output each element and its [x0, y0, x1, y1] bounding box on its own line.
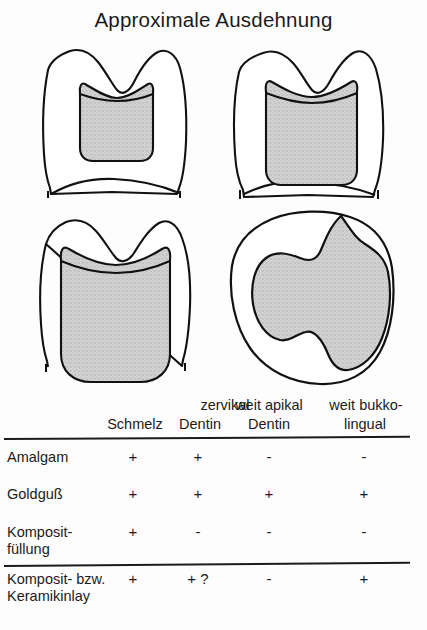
cell-keramikinlay-lingual: + [344, 571, 384, 588]
tooth-proximal-weit-apikal [22, 206, 212, 391]
cell-amalgam-lingual: - [344, 449, 384, 466]
cell-goldguss-schmelz: + [113, 486, 153, 503]
cell-kompositfuellung-zervikal-dentin: - [178, 524, 218, 541]
table-row: Amalgam + + - - [0, 442, 427, 479]
cell-amalgam-apikal-dentin: - [249, 449, 289, 466]
cell-keramikinlay-schmelz: + [113, 571, 153, 588]
cell-goldguss-lingual: + [344, 486, 384, 503]
group-header-weit-bukko: weit bukko- [316, 397, 416, 413]
column-header-schmelz: Schmelz [103, 416, 167, 432]
table-body: Amalgam + + - - Goldguß + + + + Komposit… [0, 442, 427, 611]
page-title: Approximale Ausdehnung [0, 8, 427, 32]
table-row: Komposit- füllung + - - - [0, 517, 427, 565]
table-row: Goldguß + + + + [0, 479, 427, 517]
cell-kompositfuellung-lingual: - [344, 524, 384, 541]
cell-amalgam-zervikal-dentin: + [178, 449, 218, 466]
row-label-amalgam: Amalgam [7, 449, 68, 466]
tooth-proximal-deep-cervical-dentin [218, 42, 408, 207]
column-header-lingual: lingual [334, 416, 396, 432]
indication-table: zervikal weit apikal weit bukko- Schmelz… [0, 396, 427, 630]
table-row: Komposit- bzw. Keramikinlay + + ? - + [0, 565, 427, 611]
tooth-figure-4-svg [222, 206, 417, 396]
tooth-occlusal-weit-bukko-lingual [222, 206, 417, 396]
tooth-figure-3-svg [22, 206, 212, 391]
tooth-figure-1-svg [22, 42, 212, 202]
tooth-proximal-small-cervical-enamel [22, 42, 212, 202]
column-header-apikal-dentin: Dentin [241, 416, 297, 432]
group-header-weit-apikal: weit apikal [214, 397, 324, 413]
cell-goldguss-zervikal-dentin: + [178, 486, 218, 503]
column-header-zervikal-dentin: Dentin [172, 416, 228, 432]
table-header: zervikal weit apikal weit bukko- Schmelz… [0, 396, 427, 436]
tooth-illustrations [0, 38, 427, 398]
cell-amalgam-schmelz: + [113, 449, 153, 466]
figure-page: Approximale Ausdehnung [0, 0, 427, 630]
row-label-kompositfuellung: Komposit- füllung [7, 524, 72, 557]
cell-kompositfuellung-schmelz: + [113, 524, 153, 541]
cell-keramikinlay-apikal-dentin: - [249, 571, 289, 588]
row-label-keramikinlay: Komposit- bzw. Keramikinlay [7, 571, 105, 604]
row-label-goldguss: Goldguß [7, 486, 63, 503]
tooth-figure-2-svg [218, 42, 408, 207]
cell-kompositfuellung-apikal-dentin: - [249, 524, 289, 541]
cell-keramikinlay-zervikal-dentin: + ? [178, 571, 218, 588]
table-top-rule [4, 436, 410, 440]
cell-goldguss-apikal-dentin: + [249, 486, 289, 503]
